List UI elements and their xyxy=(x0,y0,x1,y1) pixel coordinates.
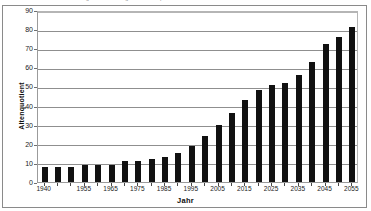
y-tick-mark xyxy=(34,145,37,146)
y-tick-mark xyxy=(34,68,37,69)
gridline xyxy=(38,31,357,32)
bar xyxy=(296,75,302,182)
x-tick-mark xyxy=(258,183,259,186)
x-tick-label: 2005 xyxy=(210,185,224,192)
x-tick-label: 1965 xyxy=(103,185,117,192)
x-axis-title: Jahr xyxy=(0,196,371,205)
y-tick-mark xyxy=(34,87,37,88)
bar xyxy=(95,165,101,182)
x-tick-label: 2045 xyxy=(317,185,331,192)
x-tick-label: 2015 xyxy=(237,185,251,192)
bar xyxy=(135,161,141,182)
y-tick-label: 80 xyxy=(11,26,33,33)
x-tick-label: 1940 xyxy=(36,185,50,192)
y-tick-mark xyxy=(34,164,37,165)
y-tick-mark xyxy=(34,30,37,31)
bar xyxy=(229,113,235,182)
y-tick-label: 50 xyxy=(11,83,33,90)
y-tick-label: 10 xyxy=(11,160,33,167)
x-tick-label: 2025 xyxy=(264,185,278,192)
x-tick-mark xyxy=(57,183,58,186)
plot-area xyxy=(37,11,358,183)
figure-container: Abbildung: Entwicklung des Altenquotient… xyxy=(0,0,371,211)
bar xyxy=(336,37,342,182)
clipped-caption: Abbildung: Entwicklung des Altenquotient… xyxy=(60,0,310,3)
x-tick-label: 1995 xyxy=(184,185,198,192)
y-tick-mark xyxy=(34,107,37,108)
x-tick-mark xyxy=(97,183,98,186)
bar xyxy=(242,100,248,182)
bar xyxy=(122,161,128,182)
y-tick-label: 70 xyxy=(11,45,33,52)
gridline xyxy=(38,12,357,13)
bar xyxy=(256,90,262,182)
x-tick-label: 1985 xyxy=(157,185,171,192)
y-tick-label: 40 xyxy=(11,103,33,110)
x-tick-mark xyxy=(151,183,152,186)
x-tick-label: 1975 xyxy=(130,185,144,192)
y-tick-label: 30 xyxy=(11,122,33,129)
x-tick-mark xyxy=(124,183,125,186)
x-tick-mark xyxy=(311,183,312,186)
bar xyxy=(323,44,329,182)
y-tick-label: 20 xyxy=(11,141,33,148)
bar xyxy=(349,27,355,182)
y-tick-label: 60 xyxy=(11,64,33,71)
x-tick-label: 2055 xyxy=(344,185,358,192)
gridline xyxy=(38,50,357,51)
bar xyxy=(162,157,168,182)
x-tick-mark xyxy=(204,183,205,186)
bar xyxy=(68,167,74,182)
x-tick-mark xyxy=(70,183,71,186)
bar xyxy=(149,159,155,182)
y-tick-mark xyxy=(34,49,37,50)
bar xyxy=(42,167,48,182)
x-tick-mark xyxy=(231,183,232,186)
bar xyxy=(55,167,61,182)
bar xyxy=(216,125,222,182)
x-tick-label: 1955 xyxy=(77,185,91,192)
x-tick-mark xyxy=(284,183,285,186)
bar xyxy=(175,153,181,182)
y-tick-mark xyxy=(34,126,37,127)
bar xyxy=(82,165,88,182)
y-tick-mark xyxy=(34,183,37,184)
bar xyxy=(109,165,115,182)
x-tick-mark xyxy=(177,183,178,186)
y-tick-label: 0 xyxy=(11,179,33,186)
bar xyxy=(202,136,208,182)
bar xyxy=(309,62,315,182)
y-tick-mark xyxy=(34,11,37,12)
bar xyxy=(269,85,275,182)
bar xyxy=(189,146,195,182)
x-tick-mark xyxy=(338,183,339,186)
x-tick-label: 2035 xyxy=(291,185,305,192)
bar xyxy=(282,83,288,182)
y-tick-label: 90 xyxy=(11,7,33,14)
